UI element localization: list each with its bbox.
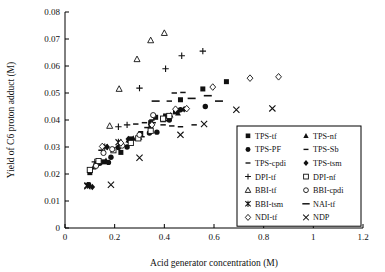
marker-open-square	[96, 158, 101, 163]
legend-label: TPS-cpdi	[255, 159, 287, 168]
legend-label: TPS-nf	[313, 132, 337, 141]
y-tick-label: 0.03	[44, 142, 60, 152]
marker-open-circle	[304, 188, 309, 193]
marker-filled-circle	[154, 129, 159, 134]
x-axis-title: Acid generator concentration (M)	[150, 258, 278, 269]
legend-label: BBI-tsm	[255, 200, 284, 209]
marker-open-square	[160, 116, 165, 121]
marker-open-circle	[151, 113, 156, 118]
marker-filled-square	[178, 97, 183, 102]
x-tick-label: 0.6	[208, 232, 220, 242]
y-tick-label: 0.02	[44, 169, 60, 179]
x-tick-label: 1	[311, 232, 316, 242]
marker-open-square	[304, 174, 309, 179]
legend-label: DPI-nf	[313, 173, 336, 182]
x-tick-label: 0.4	[159, 232, 171, 242]
legend-label: NDP	[313, 213, 330, 222]
legend-label: NAI-tf	[313, 200, 336, 209]
marker-filled-circle	[108, 155, 113, 160]
marker-filled-circle	[246, 147, 251, 152]
marker-open-square	[87, 167, 92, 172]
marker-filled-square	[224, 79, 229, 84]
chart-legend: TPS-tfTPS-nfTPS-PFTPS-SbTPS-cpdiTPS-tsmD…	[237, 126, 361, 226]
marker-open-circle	[101, 150, 106, 155]
legend-label: TPS-PF	[255, 145, 281, 154]
legend-label: TPS-tsm	[313, 159, 342, 168]
marker-filled-circle	[203, 104, 208, 109]
y-tick-label: 0.06	[44, 61, 60, 71]
marker-open-square	[167, 113, 172, 118]
x-tick-label: 0.2	[109, 232, 120, 242]
y-axis-title: Yield of C6 proton adduct (M)	[6, 62, 17, 178]
y-tick-label: 0.01	[44, 196, 60, 206]
x-tick-label: 0	[63, 232, 68, 242]
legend-label: TPS-Sb	[313, 145, 338, 154]
y-tick-label: 0.04	[44, 115, 60, 125]
chart-canvas: 00.20.40.60.811.200.010.020.030.040.050.…	[0, 0, 385, 272]
marker-filled-square	[118, 150, 123, 155]
y-tick-label: 0.05	[44, 88, 60, 98]
marker-filled-square	[246, 134, 251, 139]
x-tick-label: 1.2	[357, 232, 368, 242]
marker-open-circle	[110, 147, 115, 152]
legend-label: BBI-tf	[255, 186, 277, 195]
marker-filled-circle	[106, 160, 111, 165]
legend-label: NDI-tf	[255, 213, 278, 222]
scatter-chart-figure: 00.20.40.60.811.200.010.020.030.040.050.…	[0, 0, 385, 272]
marker-open-square	[148, 128, 153, 133]
y-tick-label: 0.07	[44, 34, 60, 44]
marker-open-circle	[93, 163, 98, 168]
marker-open-circle	[137, 132, 142, 137]
y-tick-label: 0.08	[44, 7, 60, 17]
marker-filled-square	[200, 86, 205, 91]
x-tick-label: 0.8	[258, 232, 270, 242]
marker-open-square	[128, 140, 133, 145]
legend-label: TPS-tf	[255, 132, 277, 141]
legend-label: DPI-tf	[255, 173, 276, 182]
y-tick-label: 0	[56, 223, 61, 233]
legend-label: BBI-cpdi	[313, 186, 344, 195]
